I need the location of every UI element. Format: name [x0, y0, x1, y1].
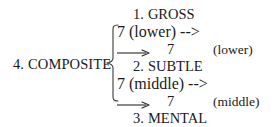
list-item: 2.SUBTLE	[117, 58, 280, 75]
list-item-number: 1.	[133, 6, 144, 22]
arrow-row: 7 (middle)	[117, 93, 280, 110]
long-rightwards-arrow-icon	[117, 101, 150, 109]
composite-label-number: 4.	[13, 56, 24, 72]
list-item-number: 3.	[133, 110, 144, 126]
arrow-row-value: 7	[167, 93, 174, 110]
arrow-row-level: (lower)	[213, 42, 253, 58]
arrow-row-value: 7	[167, 41, 174, 58]
list-item-label: SUBTLE	[148, 58, 203, 74]
long-rightwards-arrow-icon	[117, 49, 150, 57]
list-item: 1.GROSS	[117, 6, 280, 23]
arrow-row: 7 (lower)	[117, 41, 280, 58]
list-item: 3.MENTAL	[117, 110, 280, 127]
list-item-number: 2.	[133, 58, 144, 74]
diagram-canvas: 4.COMPOSITE 1.GROSS 7 (lower) --> 7 (low…	[0, 0, 280, 127]
list-item-label: MENTAL	[148, 110, 207, 126]
list-item-label: GROSS	[148, 6, 195, 22]
row-stack: 1.GROSS 7 (lower) --> 7 (lower) 2.SUBTLE…	[117, 6, 280, 127]
composite-label: 4.COMPOSITE	[13, 56, 111, 73]
arrow-row-level: (middle)	[213, 94, 260, 110]
composite-label-text: COMPOSITE	[28, 56, 111, 72]
